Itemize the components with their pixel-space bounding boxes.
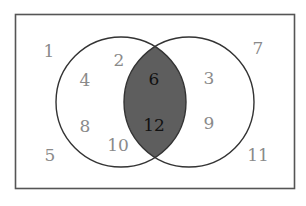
venn-diagram: 1 5 7 11 2 4 8 10 3 9 6 12: [0, 0, 306, 206]
value-10: 10: [107, 135, 129, 155]
value-8: 8: [80, 116, 91, 136]
value-6: 6: [149, 69, 160, 89]
value-2: 2: [114, 50, 125, 70]
value-11: 11: [247, 145, 269, 165]
value-7: 7: [253, 38, 264, 58]
value-4: 4: [80, 70, 91, 90]
value-5: 5: [45, 145, 56, 165]
value-9: 9: [204, 113, 215, 133]
value-12: 12: [143, 115, 165, 135]
value-3: 3: [204, 68, 215, 88]
value-1: 1: [44, 41, 55, 61]
